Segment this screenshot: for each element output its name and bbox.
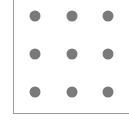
pattern-dot-1-2[interactable] <box>67 11 78 22</box>
pattern-dot-2-2[interactable] <box>67 49 78 60</box>
pattern-dot-3-1[interactable] <box>30 87 41 98</box>
pattern-dot-2-1[interactable] <box>30 49 41 60</box>
pattern-dot-3-3[interactable] <box>103 87 114 98</box>
pattern-dot-1-3[interactable] <box>103 11 114 22</box>
pattern-dot-2-3[interactable] <box>103 49 114 60</box>
pattern-dot-1-1[interactable] <box>30 11 41 22</box>
pattern-dot-3-2[interactable] <box>67 87 78 98</box>
